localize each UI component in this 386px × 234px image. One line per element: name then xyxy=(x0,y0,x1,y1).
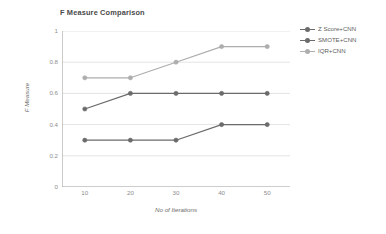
y-tick-label: 0.2 xyxy=(34,153,58,159)
data-point xyxy=(174,60,178,64)
y-tick-label: 0 xyxy=(34,184,58,190)
x-tick-label: 40 xyxy=(209,190,235,196)
legend-label: Z Score+CNN xyxy=(318,26,356,32)
x-axis-title: No of Iterations xyxy=(62,206,290,213)
legend-item[interactable]: IQR+CNN xyxy=(300,46,384,57)
data-point xyxy=(220,123,224,127)
chart-container: F Measure Comparison F Measure No of Ite… xyxy=(0,0,386,234)
data-point xyxy=(174,138,178,142)
x-tick-label: 30 xyxy=(163,190,189,196)
x-tick-label: 50 xyxy=(254,190,280,196)
legend-label: IQR+CNN xyxy=(318,48,346,54)
gridlines xyxy=(62,31,290,187)
y-tick-label: 0.4 xyxy=(34,122,58,128)
data-point xyxy=(265,45,269,49)
y-tick-label: 0.8 xyxy=(34,59,58,65)
data-point xyxy=(83,76,87,80)
y-tick-label: 0.6 xyxy=(34,90,58,96)
legend-label: SMOTE+CNN xyxy=(318,37,356,43)
data-point xyxy=(220,91,224,95)
plot-svg xyxy=(62,31,290,187)
series-z-score-cnn xyxy=(83,123,270,143)
x-tick-label: 20 xyxy=(117,190,143,196)
data-point xyxy=(265,123,269,127)
legend-marker-icon xyxy=(300,47,315,56)
plot-area xyxy=(62,31,290,187)
chart-title: F Measure Comparison xyxy=(60,8,145,17)
y-axis-tick-labels: 00.20.40.60.81 xyxy=(32,31,58,187)
y-tick-label: 1 xyxy=(34,28,58,34)
legend-marker-icon xyxy=(300,36,315,45)
x-tick-label: 10 xyxy=(72,190,98,196)
data-point xyxy=(128,76,132,80)
data-point xyxy=(220,45,224,49)
x-axis-tick-labels: 1020304050 xyxy=(62,190,290,202)
data-point xyxy=(83,107,87,111)
legend-item[interactable]: SMOTE+CNN xyxy=(300,35,384,46)
y-axis-title: F Measure xyxy=(23,68,30,128)
chart-legend: Z Score+CNNSMOTE+CNNIQR+CNN xyxy=(300,24,384,57)
data-point xyxy=(265,91,269,95)
series-smote-cnn xyxy=(83,91,270,111)
data-point xyxy=(128,138,132,142)
data-point xyxy=(83,138,87,142)
legend-marker-icon xyxy=(300,25,315,34)
legend-item[interactable]: Z Score+CNN xyxy=(300,24,384,35)
data-point xyxy=(174,91,178,95)
data-point xyxy=(128,91,132,95)
